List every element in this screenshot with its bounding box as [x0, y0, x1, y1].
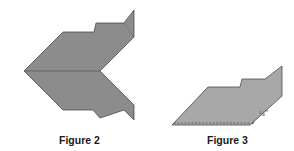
figure-2-diagram — [0, 0, 294, 151]
seam-allowance-label: ¼" — [259, 109, 268, 118]
figure-3-caption: Figure 3 — [207, 134, 248, 146]
figure-2-caption: Figure 2 — [59, 134, 100, 146]
